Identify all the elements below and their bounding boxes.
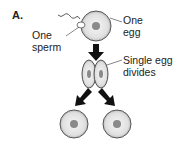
arrow-left (75, 88, 92, 106)
sperm-label-1: One (32, 30, 52, 41)
sperm-head (77, 22, 85, 28)
arrow-right (98, 88, 115, 106)
sperm-tail (58, 14, 80, 19)
divide-label-2: divides (123, 67, 156, 78)
egg-nucleus (92, 22, 100, 30)
egg-label-1: One (123, 15, 143, 26)
sperm-label-2: sperm (32, 42, 61, 53)
egg-label-2: egg (123, 27, 141, 38)
arrow-down (88, 44, 104, 61)
divide-label-1: Single egg (123, 55, 173, 66)
twin-formation-diagram (0, 0, 192, 143)
